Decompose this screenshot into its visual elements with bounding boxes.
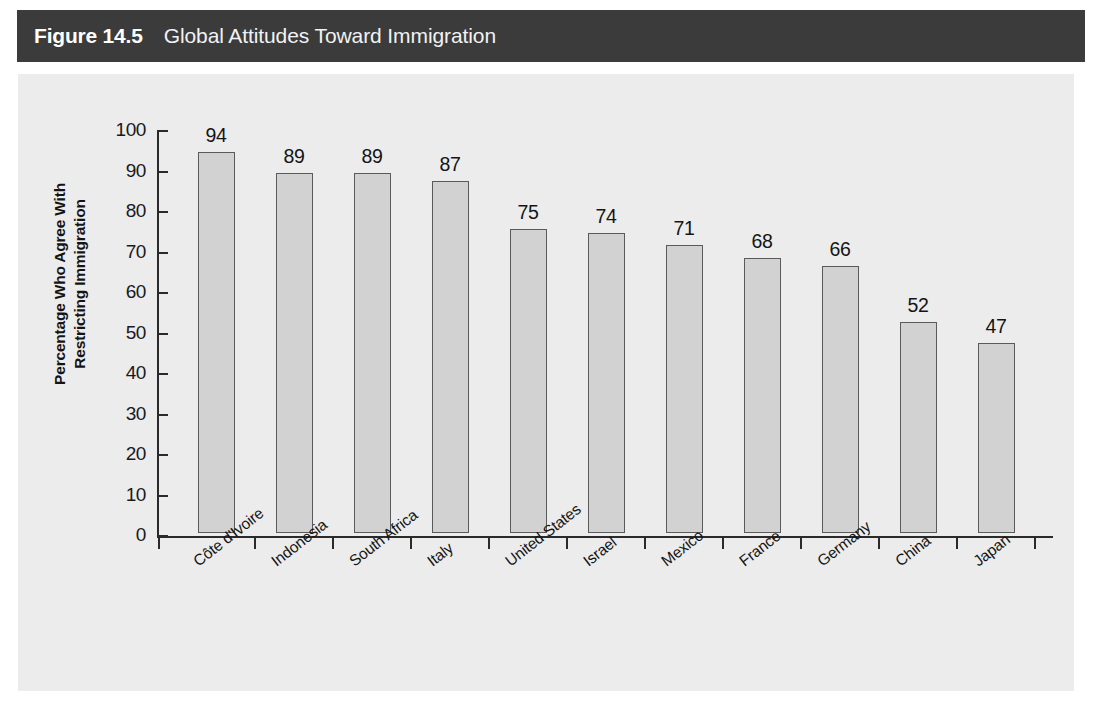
x-tick-mark — [566, 538, 568, 549]
x-tick-mark — [254, 538, 256, 549]
x-tick-mark — [956, 538, 958, 549]
y-tick-label: 20 — [100, 443, 146, 465]
y-tick-mark — [159, 495, 168, 497]
x-category-label: France — [736, 527, 784, 570]
bar-value-label: 68 — [732, 230, 792, 253]
x-tick-mark — [1034, 538, 1036, 549]
y-tick-label: 80 — [100, 200, 146, 222]
bar-value-label: 89 — [342, 145, 402, 168]
x-tick-mark — [332, 538, 334, 549]
bar — [900, 322, 937, 533]
plot-area: 0102030405060708090100 94898987757471686… — [18, 74, 1074, 691]
bar — [354, 173, 391, 533]
bar — [822, 266, 859, 533]
bar — [666, 245, 703, 533]
x-category-label: Israel — [580, 533, 620, 570]
bar — [510, 229, 547, 533]
bar — [978, 343, 1015, 533]
bar-value-label: 52 — [888, 294, 948, 317]
x-tick-mark — [878, 538, 880, 549]
bar-value-label: 47 — [966, 315, 1026, 338]
y-tick-mark — [159, 292, 168, 294]
y-tick-label: 100 — [100, 119, 146, 141]
x-tick-mark — [410, 538, 412, 549]
y-tick-label: 60 — [100, 281, 146, 303]
bar-value-label: 74 — [576, 205, 636, 228]
y-tick-mark — [159, 454, 168, 456]
x-category-label: Italy — [424, 539, 457, 570]
y-tick-label: 30 — [100, 403, 146, 425]
y-tick-mark — [159, 333, 168, 335]
bar-value-label: 71 — [654, 217, 714, 240]
figure-number: Figure 14.5 — [34, 24, 143, 48]
x-tick-mark — [800, 538, 802, 549]
y-tick-mark — [159, 252, 168, 254]
figure-header-bar: Figure 14.5 Global Attitudes Toward Immi… — [17, 10, 1085, 62]
bar — [198, 152, 235, 533]
y-tick-mark — [159, 171, 168, 173]
bar — [588, 233, 625, 533]
x-tick-mark — [722, 538, 724, 549]
y-tick-label: 10 — [100, 484, 146, 506]
y-tick-label: 70 — [100, 241, 146, 263]
chart-panel: Percentage Who Agree With Restricting Im… — [18, 74, 1074, 691]
x-tick-mark — [488, 538, 490, 549]
bar — [744, 258, 781, 533]
bar-value-label: 75 — [498, 201, 558, 224]
y-tick-label: 90 — [100, 160, 146, 182]
bar-value-label: 87 — [420, 153, 480, 176]
bar-value-label: 94 — [186, 124, 246, 147]
y-tick-mark — [159, 414, 168, 416]
figure-title: Global Attitudes Toward Immigration — [164, 24, 496, 48]
y-tick-mark — [159, 130, 168, 132]
bar — [276, 173, 313, 533]
bar — [432, 181, 469, 533]
y-tick-label: 0 — [100, 524, 146, 546]
bar-value-label: 89 — [264, 145, 324, 168]
y-tick-mark — [159, 535, 168, 537]
y-tick-label: 50 — [100, 322, 146, 344]
bar-value-label: 66 — [810, 238, 870, 261]
y-tick-mark — [159, 211, 168, 213]
x-tick-mark — [158, 538, 160, 549]
y-tick-label: 40 — [100, 362, 146, 384]
x-tick-mark — [644, 538, 646, 549]
x-category-label: Mexico — [658, 527, 707, 571]
y-tick-mark — [159, 373, 168, 375]
